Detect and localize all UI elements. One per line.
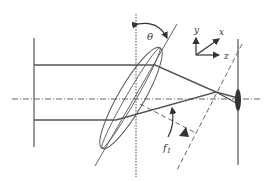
tilted-lens-inner bbox=[98, 45, 165, 150]
optical-diagram: θ f1 y x z bbox=[0, 0, 266, 181]
f1-label: f1 bbox=[162, 142, 171, 155]
theta-label: θ bbox=[147, 31, 153, 42]
detector-spot bbox=[235, 89, 241, 111]
tilted-lens bbox=[91, 41, 172, 154]
axis-y-label: y bbox=[193, 25, 200, 35]
focal-length-arrow-lower bbox=[179, 127, 189, 137]
coordinate-axes: y x z bbox=[193, 25, 229, 61]
focal-length-arc bbox=[168, 108, 173, 137]
focal-plane-dashed bbox=[176, 44, 242, 172]
axis-x-label: x bbox=[219, 27, 224, 37]
focal-direction-dashed bbox=[140, 104, 196, 133]
axis-z-label: z bbox=[223, 51, 229, 61]
